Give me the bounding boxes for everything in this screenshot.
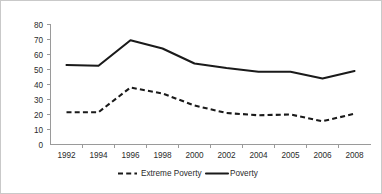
y-axis-tick-labels: 80 70 60 50 40 30 20 10 0 (34, 21, 44, 150)
x-tick-label-2005: 2005 (281, 151, 300, 160)
x-axis-tick-marks (83, 145, 339, 149)
chart-container: 80 70 60 50 40 30 20 10 0 (0, 0, 382, 194)
y-tick-label-40: 40 (34, 81, 44, 90)
y-tick-label-10: 10 (34, 126, 44, 135)
x-tick-label-2002: 2002 (217, 151, 236, 160)
line-chart: 80 70 60 50 40 30 20 10 0 (1, 1, 382, 194)
y-tick-label-50: 50 (34, 66, 44, 75)
y-tick-label-70: 70 (34, 36, 44, 45)
y-tick-label-20: 20 (34, 111, 44, 120)
x-tick-label-2006: 2006 (313, 151, 332, 160)
x-tick-label-2000: 2000 (185, 151, 204, 160)
y-tick-label-60: 60 (34, 51, 44, 60)
series-line-extreme-poverty (67, 88, 355, 122)
x-tick-label-1994: 1994 (89, 151, 108, 160)
y-tick-label-80: 80 (34, 21, 44, 30)
series-line-poverty (67, 40, 355, 78)
x-tick-label-2004: 2004 (249, 151, 268, 160)
x-tick-label-1996: 1996 (121, 151, 140, 160)
legend-label-poverty: Poverty (230, 169, 259, 178)
x-tick-label-1992: 1992 (57, 151, 76, 160)
legend: Extreme Poverty Poverty (118, 169, 259, 178)
y-tick-label-0: 0 (38, 141, 43, 150)
y-tick-label-30: 30 (34, 96, 44, 105)
y-axis-tick-marks (47, 25, 50, 130)
x-tick-label-2008: 2008 (345, 151, 364, 160)
legend-label-extreme-poverty: Extreme Poverty (141, 169, 202, 178)
x-tick-label-1998: 1998 (153, 151, 172, 160)
x-axis-tick-labels: 1992 1994 1996 1998 2000 2002 2004 2005 … (57, 151, 364, 160)
